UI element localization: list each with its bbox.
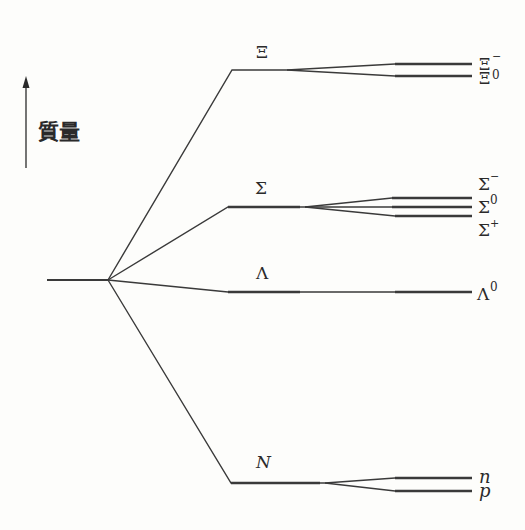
sigma-minus-label: Σ − bbox=[478, 170, 499, 194]
sigma-group-label: Σ bbox=[255, 178, 267, 198]
svg-text:0: 0 bbox=[490, 193, 498, 207]
lambda-zero-label: Λ 0 bbox=[476, 280, 498, 304]
arrow-head-icon bbox=[23, 76, 30, 88]
xi-group-label: Ξ bbox=[256, 42, 268, 62]
svg-text:−: − bbox=[492, 50, 501, 63]
nucleon-branch bbox=[108, 280, 325, 483]
svg-text:0: 0 bbox=[492, 68, 500, 82]
proton-label: p bbox=[479, 480, 491, 501]
svg-text:Ξ: Ξ bbox=[479, 69, 490, 88]
lambda-group-label: Λ bbox=[255, 263, 269, 283]
sigma-minus-level bbox=[305, 198, 472, 207]
xi-zero-label: Ξ 0 bbox=[479, 68, 500, 88]
sigma-plus-level bbox=[305, 207, 472, 216]
svg-text:Σ: Σ bbox=[478, 174, 490, 194]
svg-text:Σ: Σ bbox=[478, 197, 490, 217]
nucleon-group-label: N bbox=[255, 452, 272, 472]
xi-branch bbox=[108, 70, 287, 280]
svg-text:Σ: Σ bbox=[478, 220, 490, 240]
mass-splitting-diagram: 質量 Ξ Σ Λ N Ξ − Ξ 0 Σ − Σ 0 Σ + Λ 0 n p bbox=[0, 0, 525, 530]
lambda-branch bbox=[108, 280, 472, 292]
svg-text:−: − bbox=[490, 170, 499, 183]
svg-text:Λ: Λ bbox=[476, 284, 490, 304]
sigma-branch bbox=[108, 207, 305, 280]
sigma-plus-label: Σ + bbox=[478, 217, 499, 240]
sigma-zero-label: Σ 0 bbox=[478, 193, 498, 217]
svg-text:0: 0 bbox=[490, 280, 498, 294]
svg-text:+: + bbox=[490, 217, 499, 230]
mass-axis-label: 質量 bbox=[38, 120, 80, 144]
